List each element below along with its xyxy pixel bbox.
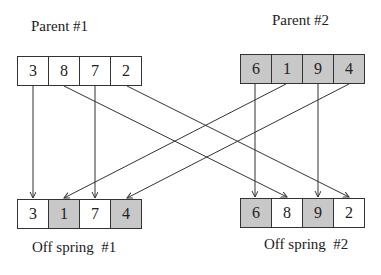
offspring2-gene-3: 9 — [303, 199, 334, 227]
parent2-gene-4: 4 — [334, 55, 364, 83]
offspring1-gene-2: 1 — [49, 200, 80, 228]
parent2-gene-3: 9 — [303, 55, 334, 83]
crossover-arrows — [0, 0, 381, 275]
parent1-gene-1: 3 — [18, 57, 49, 85]
parent1-gene-4: 2 — [111, 57, 141, 85]
offspring1-gene-4: 4 — [111, 200, 141, 228]
offspring2-gene-4: 2 — [334, 199, 364, 227]
parent2-chromosome: 6 1 9 4 — [240, 54, 365, 84]
arrow-p2-gene2-to-o1-gene2 — [64, 84, 286, 198]
offspring1-gene-1: 3 — [18, 200, 49, 228]
offspring2-label: Off spring #2 — [264, 236, 348, 253]
parent2-label: Parent #2 — [272, 12, 329, 29]
parent1-chromosome: 3 8 7 2 — [17, 56, 142, 86]
parent2-gene-2: 1 — [272, 55, 303, 83]
offspring1-gene-3: 7 — [80, 200, 111, 228]
parent1-gene-3: 7 — [80, 57, 111, 85]
offspring1-chromosome: 3 1 7 4 — [17, 199, 142, 229]
parent1-gene-2: 8 — [49, 57, 80, 85]
offspring2-gene-2: 8 — [272, 199, 303, 227]
parent1-label: Parent #1 — [31, 18, 88, 35]
offspring1-label: Off spring #1 — [32, 239, 116, 256]
parent2-gene-1: 6 — [241, 55, 272, 83]
offspring2-gene-1: 6 — [241, 199, 272, 227]
offspring2-chromosome: 6 8 9 2 — [240, 198, 365, 228]
